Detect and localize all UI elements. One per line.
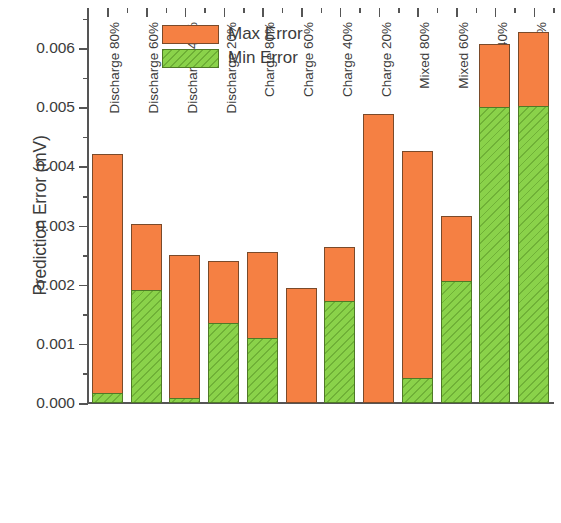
legend-item-min-error: Min Error [162, 46, 303, 70]
x-minor-tick-mark [359, 8, 361, 13]
legend-label-min-error: Min Error [228, 48, 298, 68]
bar-min-error [479, 107, 510, 403]
x-minor-tick-mark [282, 8, 284, 13]
bar-min-error [247, 338, 278, 403]
y-minor-tick-mark [83, 19, 88, 21]
bar-min-error [92, 393, 123, 403]
x-minor-tick-mark [321, 8, 323, 13]
bar-min-error [518, 106, 549, 403]
bar-min-error [208, 323, 239, 403]
y-tick-label: 0.005 [36, 98, 75, 116]
y-tick-label: 0.001 [36, 335, 75, 353]
x-minor-tick-mark [243, 8, 245, 13]
bar-min-error [402, 378, 433, 403]
y-tick-mark [79, 403, 88, 405]
bar-max-error [402, 151, 433, 403]
y-tick-label: 0.000 [36, 394, 75, 412]
y-tick-label: 0.002 [36, 276, 75, 294]
x-minor-tick-mark [553, 8, 555, 13]
y-minor-tick-mark [83, 196, 88, 198]
x-minor-tick-mark [166, 8, 168, 13]
y-minor-tick-mark [83, 314, 88, 316]
bar-group [92, 8, 123, 403]
legend-item-max-error: Max Error [162, 22, 303, 46]
bar-min-error [324, 301, 355, 403]
bar-max-error [92, 154, 123, 403]
x-minor-tick-mark [514, 8, 516, 13]
y-tick-mark [79, 166, 88, 168]
x-minor-tick-mark [398, 8, 400, 13]
x-minor-tick-mark [476, 8, 478, 13]
y-tick-mark [79, 344, 88, 346]
bar-group [441, 8, 472, 403]
y-tick-mark [79, 107, 88, 109]
y-minor-tick-mark [83, 373, 88, 375]
plot-area: 0.0000.0010.0020.0030.0040.0050.006 Disc… [88, 8, 553, 403]
y-tick-mark [79, 226, 88, 228]
x-minor-tick-mark [127, 8, 129, 13]
bar-chart-figure: Prediction Error (mV) 0.0000.0010.0020.0… [0, 0, 561, 523]
bar-min-error [441, 281, 472, 403]
bar-max-error [169, 255, 200, 403]
y-tick-mark [79, 285, 88, 287]
bar-min-error [131, 290, 162, 403]
chart-legend: Max Error Min Error [162, 22, 303, 70]
y-tick-label: 0.004 [36, 157, 75, 175]
y-minor-tick-mark [83, 255, 88, 257]
legend-swatch-max-error [162, 25, 219, 44]
legend-swatch-min-error [162, 49, 219, 68]
y-minor-tick-mark [83, 78, 88, 80]
bar-group [479, 8, 510, 403]
y-tick-label: 0.003 [36, 217, 75, 235]
bar-group [518, 8, 549, 403]
y-minor-tick-mark [83, 137, 88, 139]
x-minor-tick-mark [204, 8, 206, 13]
bar-group [324, 8, 355, 403]
bar-max-error [286, 288, 317, 403]
y-tick-mark [79, 48, 88, 50]
legend-label-max-error: Max Error [228, 24, 303, 44]
bar-group [363, 8, 394, 403]
bar-group [402, 8, 433, 403]
bar-min-error [169, 398, 200, 403]
bar-group [131, 8, 162, 403]
bar-max-error [363, 114, 394, 403]
x-minor-tick-mark [437, 8, 439, 13]
y-tick-label: 0.006 [36, 39, 75, 57]
